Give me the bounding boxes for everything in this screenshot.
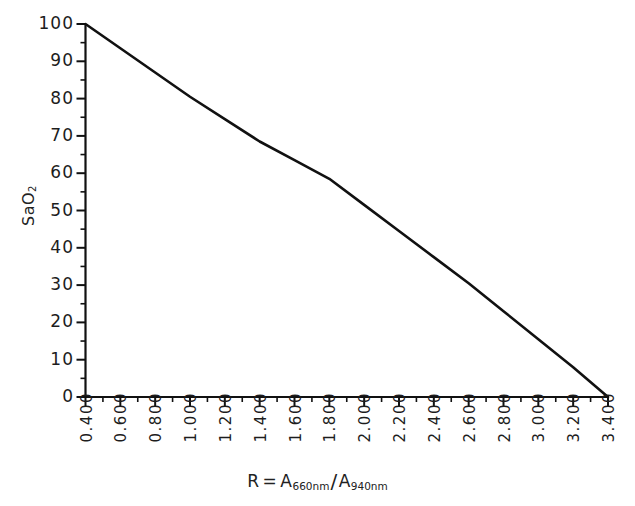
- x-tick-label: 1.400: [254, 392, 269, 462]
- x-tick-label: 2.200: [393, 392, 408, 462]
- x-tick-label: 2.400: [428, 392, 443, 462]
- x-tick-label: 2.800: [498, 392, 513, 462]
- x-tick-label: 0.400: [80, 392, 95, 462]
- x-tick-label: 1.000: [184, 392, 199, 462]
- y-axis-title-base: SaO: [19, 192, 38, 226]
- x-tick-label: 1.800: [323, 392, 338, 462]
- chart-figure: 0102030405060708090100 0.4000.6000.8001.…: [0, 0, 635, 506]
- x-axis-title-a940-subscript: 940nm: [351, 480, 388, 492]
- x-tick-label: 2.600: [463, 392, 478, 462]
- x-axis-title-slash: /: [330, 469, 337, 493]
- x-axis-title-equals: =: [263, 471, 278, 491]
- x-axis-tick-labels: 0.4000.6000.8001.0001.2001.4001.6001.800…: [0, 0, 635, 506]
- x-tick-label: 0.600: [114, 392, 129, 462]
- x-tick-label: 2.000: [358, 392, 373, 462]
- x-axis-title-a660: A: [280, 471, 292, 491]
- x-tick-label: 1.600: [289, 392, 304, 462]
- y-axis-title: SaO2: [19, 166, 38, 246]
- x-tick-label: 0.800: [149, 392, 164, 462]
- x-tick-label: 1.200: [219, 392, 234, 462]
- x-axis-title-r: R: [247, 471, 259, 491]
- x-tick-label: 3.000: [532, 392, 547, 462]
- x-tick-label: 3.400: [602, 392, 617, 462]
- x-axis-title-a660-subscript: 660nm: [292, 480, 329, 492]
- y-axis-title-subscript: 2: [27, 185, 38, 192]
- x-axis-title: R=A660nm/A940nm: [0, 468, 635, 492]
- x-axis-title-a940: A: [339, 471, 351, 491]
- x-tick-label: 3.200: [567, 392, 582, 462]
